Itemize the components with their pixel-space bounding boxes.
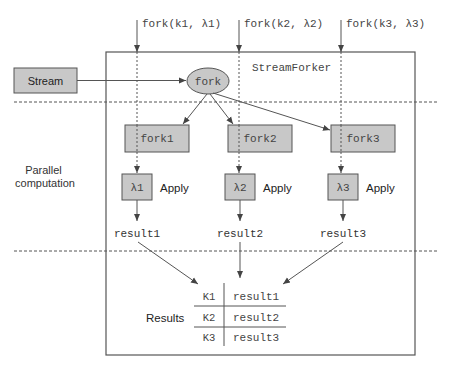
results-table-key-3: K3 xyxy=(203,332,216,344)
stream-label: Stream xyxy=(28,75,63,87)
results-label: Results xyxy=(146,312,185,324)
result1-label: result1 xyxy=(114,228,161,240)
results-table-value-2: result2 xyxy=(233,312,279,324)
fork2-label: fork2 xyxy=(243,133,276,145)
apply-label-1: Apply xyxy=(160,182,189,194)
lambda3-label: λ3 xyxy=(336,182,349,194)
apply-label-3: Apply xyxy=(366,182,395,194)
fork-call-label-3: fork(k3, λ3) xyxy=(346,18,425,30)
results-table-value-3: result3 xyxy=(233,332,279,344)
fork3-label: fork3 xyxy=(346,133,379,145)
results-table-key-2: K2 xyxy=(203,312,216,324)
streamforker-label: StreamForker xyxy=(252,62,331,74)
streamforker-container xyxy=(106,52,415,355)
results-table: K1 result1 K2 result2 K3 result3 xyxy=(194,283,286,346)
fork-call-label-2: fork(k2, λ2) xyxy=(244,18,323,30)
lambda1-label: λ1 xyxy=(130,182,144,194)
result3-label: result3 xyxy=(320,228,366,240)
lambda2-label: λ2 xyxy=(233,182,246,194)
streamforker-diagram: StreamForker fork(k1, λ1) fork(k2, λ2) f… xyxy=(0,0,453,371)
parallel-computation-label: Parallel computation xyxy=(15,164,75,189)
lambda-to-result-arrows xyxy=(137,200,343,221)
fork-node-label: fork xyxy=(195,76,222,88)
fork1-label: fork1 xyxy=(140,133,173,145)
apply-label-2: Apply xyxy=(263,182,292,194)
fork-call-label-1: fork(k1, λ1) xyxy=(142,18,221,30)
fork-branch-arrows xyxy=(183,93,330,130)
result-to-table-arrows xyxy=(138,242,343,284)
results-table-key-1: K1 xyxy=(203,291,216,303)
results-table-value-1: result1 xyxy=(233,291,280,303)
result2-label: result2 xyxy=(217,228,263,240)
